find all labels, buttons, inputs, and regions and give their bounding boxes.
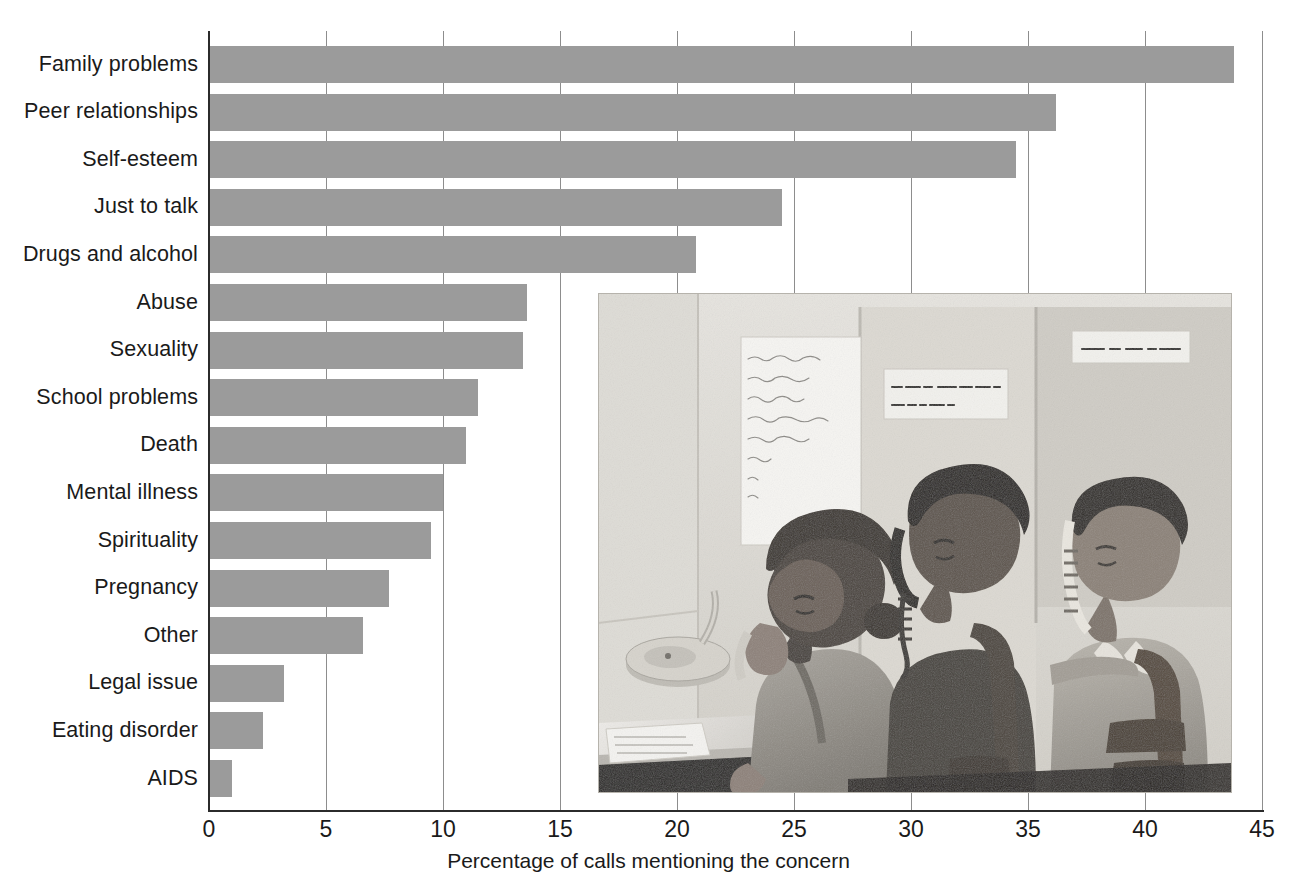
bar-abuse <box>209 284 527 321</box>
category-label: School problems <box>36 387 198 409</box>
bar-fill <box>209 712 263 749</box>
bar-sexuality <box>209 332 523 369</box>
bar-legal-issue <box>209 665 284 702</box>
bar-fill <box>209 141 1016 178</box>
bar-eating-disorder <box>209 712 263 749</box>
bar-other <box>209 617 363 654</box>
x-tick-label-10: 10 <box>430 818 456 841</box>
bar-spirituality <box>209 522 431 559</box>
bar-drugs-and-alcohol <box>209 236 696 273</box>
bar-aids <box>209 760 232 797</box>
category-label: Mental illness <box>66 482 198 504</box>
photo-illustration <box>598 293 1232 793</box>
x-tick-label-30: 30 <box>898 818 924 841</box>
bar-fill <box>209 665 284 702</box>
category-label: Abuse <box>137 292 198 314</box>
bar-fill <box>209 284 527 321</box>
gridline-45 <box>1262 31 1263 810</box>
hotline-photograph <box>598 293 1232 793</box>
category-label: Death <box>140 434 198 456</box>
category-label: Self-esteem <box>82 149 198 171</box>
bar-pregnancy <box>209 570 389 607</box>
bar-mental-illness <box>209 474 443 511</box>
y-axis-line <box>208 31 210 812</box>
category-label: Pregnancy <box>94 577 198 599</box>
category-label: Drugs and alcohol <box>23 244 198 266</box>
bar-fill <box>209 332 523 369</box>
bar-fill <box>209 379 478 416</box>
bar-fill <box>209 94 1056 131</box>
category-label: Other <box>144 625 198 647</box>
x-tick-label-35: 35 <box>1015 818 1041 841</box>
x-tick-label-20: 20 <box>664 818 690 841</box>
category-label: Just to talk <box>94 196 198 218</box>
bar-fill <box>209 236 696 273</box>
bar-peer-relationships <box>209 94 1056 131</box>
category-label: Family problems <box>39 54 198 76</box>
x-tick-label-5: 5 <box>320 818 333 841</box>
bar-just-to-talk <box>209 189 782 226</box>
bar-death <box>209 427 466 464</box>
bar-fill <box>209 760 232 797</box>
bar-fill <box>209 617 363 654</box>
category-label: Eating disorder <box>52 720 198 742</box>
x-tick-label-25: 25 <box>781 818 807 841</box>
category-label: Legal issue <box>88 672 198 694</box>
bar-fill <box>209 474 443 511</box>
bar-fill <box>209 522 431 559</box>
category-label: Peer relationships <box>24 101 198 123</box>
bar-fill <box>209 46 1234 83</box>
bar-school-problems <box>209 379 478 416</box>
bar-self-esteem <box>209 141 1016 178</box>
x-tick-label-40: 40 <box>1132 818 1158 841</box>
category-label: Sexuality <box>110 339 198 361</box>
bar-fill <box>209 570 389 607</box>
category-label: Spirituality <box>98 530 198 552</box>
x-tick-label-0: 0 <box>203 818 216 841</box>
x-tick-label-45: 45 <box>1249 818 1275 841</box>
x-axis-line <box>208 810 1264 812</box>
x-axis-title: Percentage of calls mentioning the conce… <box>0 849 1297 873</box>
x-tick-label-15: 15 <box>547 818 573 841</box>
category-label: AIDS <box>147 768 198 790</box>
figure-root: Family problemsPeer relationshipsSelf-es… <box>0 0 1297 887</box>
bar-fill <box>209 189 782 226</box>
bar-fill <box>209 427 466 464</box>
bar-family-problems <box>209 46 1234 83</box>
